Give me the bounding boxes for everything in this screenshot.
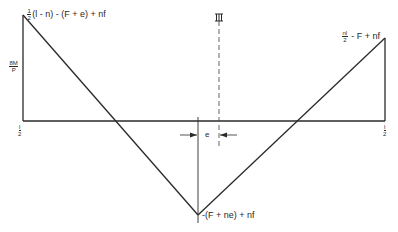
label-right-peak: nl2 - F + nf bbox=[342, 30, 380, 43]
frac-den: 2 bbox=[18, 131, 21, 137]
frac-num: nl bbox=[342, 30, 348, 37]
left-diagonal bbox=[23, 15, 198, 215]
label-left-end: l2 bbox=[18, 124, 22, 137]
frac-den: 2 bbox=[28, 15, 31, 21]
frac-den: P bbox=[12, 67, 16, 73]
label-right-end: l2 bbox=[383, 124, 387, 137]
moment-diagram bbox=[0, 0, 398, 232]
frac-num: l bbox=[19, 124, 21, 131]
label-left-peak: 12(l - n) - (F + e) + nf bbox=[27, 8, 106, 21]
right-diagonal bbox=[198, 38, 385, 215]
centerline-marker-icon bbox=[215, 14, 223, 21]
label-text: (l - n) - (F + e) + nf bbox=[32, 9, 106, 19]
label-bottom-vertex: -(F + ne) + nf bbox=[202, 211, 255, 220]
label-y-axis: 8MP bbox=[9, 60, 19, 73]
frac-den: 2 bbox=[343, 37, 346, 43]
frac-num: 1 bbox=[27, 8, 31, 15]
frac-num: 8M bbox=[9, 60, 18, 67]
label-eccentricity: e bbox=[205, 131, 209, 139]
frac-den: 2 bbox=[383, 131, 386, 137]
frac-num: l bbox=[384, 124, 386, 131]
label-text: - F + nf bbox=[349, 31, 380, 41]
